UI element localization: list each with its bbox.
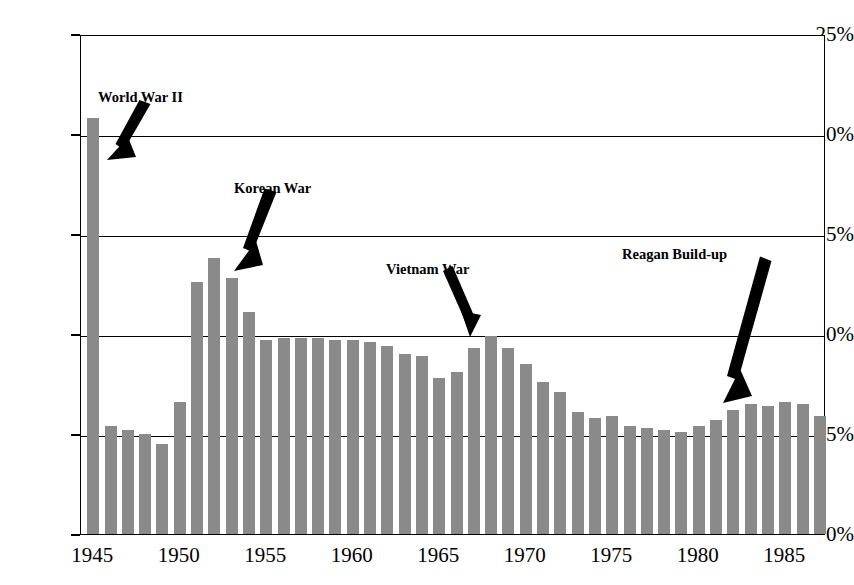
bar [485, 336, 497, 534]
bar [156, 444, 168, 534]
bar [727, 410, 739, 534]
y-axis-tick-mark [71, 434, 80, 436]
annotation-label-world-war-ii: World War II [98, 89, 183, 106]
bar [451, 372, 463, 534]
annotation-label-reagan-build-up: Reagan Build-up [622, 246, 727, 263]
bar [589, 418, 601, 534]
y-axis-tick-mark [71, 334, 80, 336]
x-axis-tick-label: 1975 [576, 545, 646, 566]
bar [606, 416, 618, 534]
bar [399, 354, 411, 534]
bar [710, 420, 722, 534]
annotation-label-korean-war: Korean War [234, 180, 311, 197]
bar [243, 312, 255, 534]
bar [745, 404, 757, 534]
bar [624, 426, 636, 534]
x-axis-tick-label: 1950 [144, 545, 214, 566]
x-axis-tick-label: 1945 [57, 545, 127, 566]
bar [693, 426, 705, 534]
bar [381, 346, 393, 534]
bar [191, 282, 203, 534]
x-axis-tick-label: 1965 [403, 545, 473, 566]
annotation-label-vietnam-war: Vietnam War [386, 261, 469, 278]
bar [329, 340, 341, 534]
bar-series [81, 36, 824, 534]
bar [572, 412, 584, 534]
bar [658, 430, 670, 534]
y-axis-tick-mark [71, 134, 80, 136]
bar [468, 348, 480, 534]
defense-spending-bar-chart: 0%5%10%15%20%25% 19451950195519601965197… [0, 0, 854, 585]
x-axis-tick-label: 1985 [749, 545, 819, 566]
bar [105, 426, 117, 534]
bar [520, 364, 532, 534]
bar [278, 338, 290, 534]
bar [208, 258, 220, 534]
bar [502, 348, 514, 534]
bar [87, 118, 99, 534]
bar [675, 432, 687, 534]
bar [537, 382, 549, 534]
x-axis-tick-label: 1955 [230, 545, 300, 566]
bar [226, 278, 238, 534]
bar [416, 356, 428, 534]
y-axis-tick-mark [71, 34, 80, 36]
bar [554, 392, 566, 534]
bar [779, 402, 791, 534]
y-axis-tick-mark [71, 534, 80, 536]
bar [295, 338, 307, 534]
bar [122, 430, 134, 534]
bar [312, 338, 324, 534]
bar [174, 402, 186, 534]
x-axis-tick-label: 1970 [490, 545, 560, 566]
bar [139, 434, 151, 534]
bar [260, 340, 272, 534]
y-axis-tick-mark [71, 234, 80, 236]
x-axis-tick-label: 1960 [317, 545, 387, 566]
bar [641, 428, 653, 534]
plot-area [80, 35, 825, 535]
bar [364, 342, 376, 534]
bar [347, 340, 359, 534]
bar [762, 406, 774, 534]
bar [814, 416, 826, 534]
bar [797, 404, 809, 534]
bar [433, 378, 445, 534]
x-axis-tick-label: 1980 [663, 545, 733, 566]
